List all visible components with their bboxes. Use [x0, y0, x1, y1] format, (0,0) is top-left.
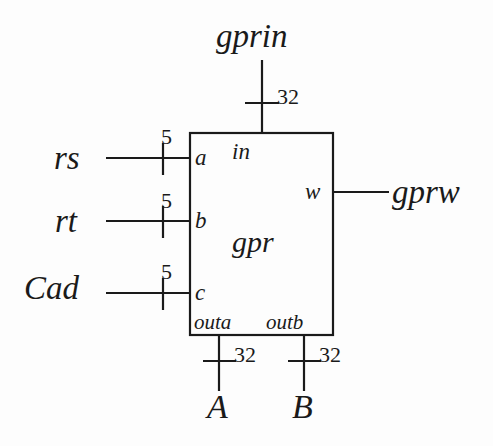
signal-label-gprw: gprw	[392, 176, 460, 209]
port-label-in: in	[232, 140, 250, 163]
bus-width-rs: 5	[161, 126, 172, 148]
bus-width-gprin: 32	[277, 86, 299, 108]
port-label-a: a	[195, 146, 207, 169]
block-diagram-canvas: gprin rs rt Cad gprw A B 32 5 5 5 32 32 …	[0, 0, 493, 446]
signal-label-rs: rs	[54, 142, 80, 175]
signal-label-b-out: B	[292, 390, 313, 424]
port-label-b: b	[195, 209, 207, 232]
signal-label-cad: Cad	[24, 272, 79, 305]
bus-width-outa: 32	[234, 344, 256, 366]
signal-label-gprin: gprin	[216, 20, 288, 53]
bus-width-outb: 32	[319, 344, 341, 366]
port-label-outb: outb	[266, 312, 303, 333]
block-label-gpr: gpr	[232, 227, 274, 257]
bus-width-rt: 5	[161, 190, 172, 212]
port-label-w: w	[305, 180, 320, 203]
signal-label-rt: rt	[55, 205, 77, 238]
bus-width-cad: 5	[161, 261, 172, 283]
port-label-c: c	[195, 281, 205, 304]
signal-label-a-out: A	[207, 390, 228, 424]
port-label-outa: outa	[194, 312, 231, 333]
